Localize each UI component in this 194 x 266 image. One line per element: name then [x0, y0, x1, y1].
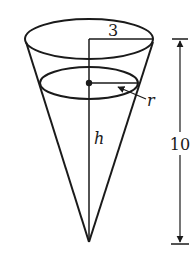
tank-height-label: 10: [170, 135, 190, 154]
cone-left-side: [26, 42, 89, 242]
cone-diagram: 3 r h 10: [0, 0, 194, 266]
water-center-dot: [86, 80, 92, 86]
water-radius-label: r: [147, 91, 156, 110]
water-height-label: h: [94, 129, 104, 148]
top-radius-label: 3: [108, 21, 118, 40]
r-pointer-arrow: [118, 87, 146, 99]
